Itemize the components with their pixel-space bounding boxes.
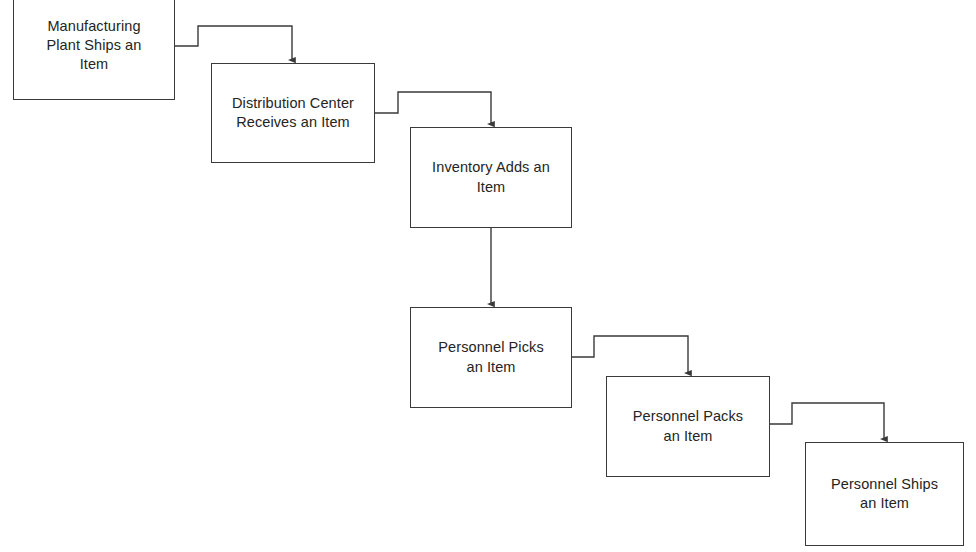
connector-distribution-to-inventory [375, 92, 491, 124]
node-label: Distribution Center Receives an Item [225, 94, 361, 132]
node-personnel-picks[interactable]: Personnel Picks an Item [410, 307, 572, 408]
node-label: Inventory Adds an Item [425, 158, 557, 196]
connector-picks-to-packs [572, 336, 688, 373]
node-label: Personnel Ships an Item [824, 475, 945, 513]
node-label: Manufacturing Plant Ships an Item [40, 17, 149, 74]
node-inventory-adds[interactable]: Inventory Adds an Item [410, 127, 572, 228]
node-personnel-packs[interactable]: Personnel Packs an Item [606, 376, 770, 477]
node-manufacturing-plant-ships[interactable]: Manufacturing Plant Ships an Item [13, 0, 175, 100]
flowchart-canvas: Manufacturing Plant Ships an ItemDistrib… [0, 0, 976, 552]
node-distribution-center-receives[interactable]: Distribution Center Receives an Item [211, 63, 375, 163]
connector-plant-to-distribution [175, 26, 292, 60]
node-label: Personnel Packs an Item [626, 407, 750, 445]
node-personnel-ships[interactable]: Personnel Ships an Item [805, 442, 964, 546]
connector-packs-to-ships [770, 403, 884, 439]
node-label: Personnel Picks an Item [431, 338, 550, 376]
